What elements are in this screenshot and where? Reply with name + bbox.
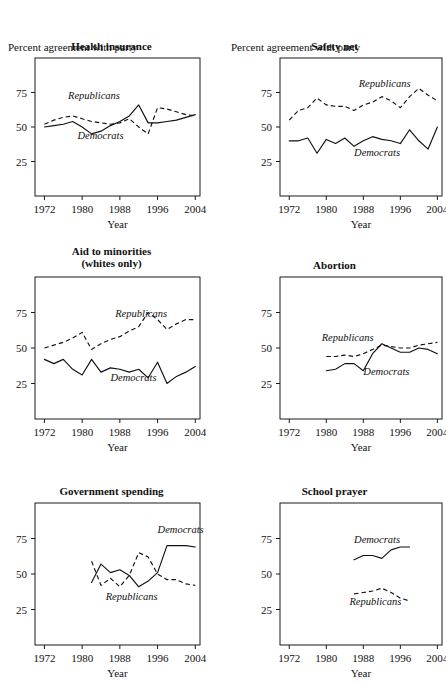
y-axis-tick-label: 50 [16, 568, 28, 580]
y-axis-tick-label: 75 [261, 533, 273, 545]
x-axis-tick-label: 1980 [315, 203, 338, 215]
series-annotation: Democrats [76, 130, 123, 141]
series-annotation: Republicans [321, 332, 374, 343]
series-annotation: Democrats [109, 372, 156, 383]
y-axis-tick-label: 75 [16, 533, 28, 545]
plot-frame [35, 58, 200, 196]
chart-plot-area: 25507519721980198819962004YearRepublican… [223, 230, 446, 460]
x-axis-title: Year [107, 218, 128, 230]
y-axis-tick-label: 25 [16, 156, 28, 168]
y-axis-tick-label: 75 [261, 87, 273, 99]
y-axis-tick-label: 50 [16, 121, 28, 133]
x-axis-tick-label: 1980 [71, 203, 94, 215]
x-axis-tick-label: 1988 [109, 652, 132, 664]
x-axis-tick-label: 1972 [278, 652, 300, 664]
series-annotation: Democrats [353, 147, 400, 158]
x-axis-tick-label: 1996 [389, 652, 412, 664]
y-axis-tick-label: 75 [261, 307, 273, 319]
y-axis-tick-label: 25 [261, 604, 273, 616]
y-axis-tick-label: 50 [16, 342, 28, 354]
y-axis-tick-label: 75 [16, 87, 28, 99]
chart-plot-area: 25507519721980198819962004YearRepublican… [223, 0, 446, 230]
x-axis-tick-label: 1988 [352, 426, 375, 438]
series-line-democrats [354, 547, 410, 560]
y-axis-tick-label: 75 [16, 307, 28, 319]
x-axis-title: Year [351, 441, 372, 453]
chart-panel: Government spending255075197219801988199… [0, 460, 223, 684]
x-axis-title: Year [107, 441, 128, 453]
series-annotation: Republicans [348, 596, 401, 607]
x-axis-tick-label: 1972 [33, 203, 55, 215]
series-annotation: Republicans [67, 90, 120, 101]
y-axis-tick-label: 50 [261, 342, 273, 354]
x-axis-tick-label: 1996 [147, 652, 170, 664]
y-axis-tick-label: 25 [16, 604, 28, 616]
x-axis-tick-label: 1972 [33, 652, 55, 664]
x-axis-tick-label: 1988 [109, 203, 132, 215]
series-annotation: Republicans [358, 78, 411, 89]
x-axis-tick-label: 1972 [33, 426, 55, 438]
y-axis-tick-label: 50 [261, 121, 273, 133]
x-axis-tick-label: 1980 [315, 426, 338, 438]
x-axis-tick-label: 2004 [184, 652, 207, 664]
y-axis-tick-label: 50 [261, 568, 273, 580]
chart-plot-area: 25507519721980198819962004YearDemocratsR… [0, 460, 223, 684]
x-axis-tick-label: 1980 [71, 426, 94, 438]
x-axis-tick-label: 2004 [184, 203, 207, 215]
plot-frame [280, 503, 442, 645]
x-axis-tick-label: 2004 [426, 652, 446, 664]
x-axis-tick-label: 1980 [315, 652, 338, 664]
x-axis-tick-label: 1980 [71, 652, 94, 664]
series-line-republicans [289, 88, 437, 120]
chart-plot-area: 25507519721980198819962004YearRepublican… [0, 230, 223, 460]
chart-panel: Aid to minorities(whites only)2550751972… [0, 230, 223, 460]
x-axis-title: Year [351, 667, 372, 679]
x-axis-tick-label: 2004 [184, 426, 207, 438]
x-axis-tick-label: 2004 [426, 203, 446, 215]
x-axis-tick-label: 1972 [278, 203, 300, 215]
series-annotation: Democrats [362, 366, 409, 377]
x-axis-tick-label: 1972 [278, 426, 300, 438]
x-axis-tick-label: 1996 [389, 426, 412, 438]
chart-plot-area: 25507519721980198819962004YearDemocratsR… [223, 460, 446, 684]
x-axis-title: Year [351, 218, 372, 230]
x-axis-tick-label: 1996 [147, 426, 170, 438]
y-axis-tick-label: 25 [16, 378, 28, 390]
chart-panel: Abortion25507519721980198819962004YearRe… [223, 230, 446, 460]
chart-plot-area: 25507519721980198819962004YearRepublican… [0, 0, 223, 230]
chart-panel: School prayer25507519721980198819962004Y… [223, 460, 446, 684]
x-axis-tick-label: 1996 [147, 203, 170, 215]
series-annotation: Republicans [114, 308, 167, 319]
chart-panel: Health insurancePercent agreement with p… [0, 0, 223, 230]
x-axis-tick-label: 2004 [426, 426, 446, 438]
x-axis-tick-label: 1988 [352, 652, 375, 664]
figure-panel-grid: Health insurancePercent agreement with p… [0, 0, 446, 684]
series-annotation: Democrats [157, 524, 204, 535]
plot-frame [35, 277, 200, 419]
series-annotation: Democrats [353, 534, 400, 545]
x-axis-tick-label: 1988 [109, 426, 132, 438]
y-axis-tick-label: 25 [261, 156, 273, 168]
series-annotation: Republicans [105, 591, 158, 602]
x-axis-title: Year [107, 667, 128, 679]
chart-panel: Safety netPercent agreement with party25… [223, 0, 446, 230]
x-axis-tick-label: 1988 [352, 203, 375, 215]
x-axis-tick-label: 1996 [389, 203, 412, 215]
y-axis-tick-label: 25 [261, 378, 273, 390]
